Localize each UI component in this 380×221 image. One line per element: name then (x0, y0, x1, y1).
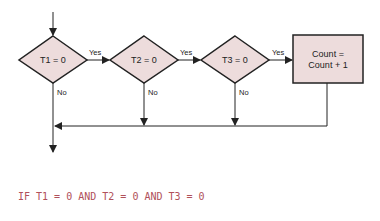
decision-t2-label: T2 = 0 (131, 55, 157, 65)
process-line-1: Count = (312, 49, 344, 59)
yes-label-1: Yes (89, 48, 101, 57)
code-line-1: IF T1 = 0 AND T2 = 0 AND T3 = 0 (18, 191, 205, 203)
decision-t1-label: T1 = 0 (40, 55, 66, 65)
process-line-2: Count + 1 (308, 60, 347, 70)
pseudocode: IF T1 = 0 AND T2 = 0 AND T3 = 0 Count = … (18, 167, 205, 221)
no-label-2: No (148, 88, 158, 97)
no-label-1: No (57, 88, 67, 97)
merge-line (55, 83, 327, 126)
yes-label-2: Yes (180, 48, 192, 57)
yes-label-3: Yes (272, 48, 284, 57)
no-label-3: No (239, 88, 249, 97)
process-box (293, 35, 363, 83)
decision-t3-label: T3 = 0 (222, 55, 248, 65)
